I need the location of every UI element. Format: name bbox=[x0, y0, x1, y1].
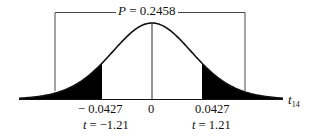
right-tail-shaded-region bbox=[202, 63, 283, 99]
t-stat-label-negative: t = −1.21 bbox=[83, 119, 129, 132]
p-value-label: P = 0.2458 bbox=[116, 4, 178, 18]
t-pos-value: = 1.21 bbox=[195, 118, 230, 132]
p-var: P bbox=[118, 3, 126, 18]
t-neg-value: = −1.21 bbox=[86, 118, 128, 132]
t-distribution-chart bbox=[0, 0, 319, 140]
left-tail-shaded-region bbox=[19, 63, 102, 99]
x-axis-label: t14 bbox=[288, 92, 300, 109]
t-stat-label-positive: t = 1.21 bbox=[192, 119, 231, 132]
p-value-text: = 0.2458 bbox=[126, 3, 176, 18]
tick-label-zero: 0 bbox=[148, 103, 154, 116]
density-curve bbox=[19, 23, 283, 98]
tick-label-negative: − 0.0427 bbox=[78, 103, 123, 116]
x-axis-df: 14 bbox=[292, 100, 300, 109]
tick-label-positive: 0.0427 bbox=[195, 103, 229, 116]
